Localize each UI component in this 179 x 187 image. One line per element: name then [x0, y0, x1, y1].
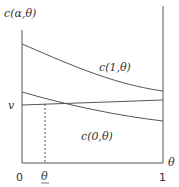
x-tick-one: 1 — [159, 171, 166, 184]
chart: c(α,θ) c(1,θ) c(0,θ) v 0 θ 1 θ — [0, 0, 179, 187]
curve-c1 — [22, 44, 163, 91]
v-label: v — [8, 99, 15, 112]
x-tick-theta-low: θ — [41, 170, 48, 183]
curve-c0-label: c(0,θ) — [81, 130, 113, 143]
x-tick-zero: 0 — [16, 171, 23, 184]
y-axis-label: c(α,θ) — [4, 7, 36, 20]
x-axis-label: θ — [168, 156, 175, 169]
curve-c1-label: c(1,θ) — [99, 61, 131, 74]
curve-c0 — [22, 92, 163, 121]
line-v — [22, 100, 163, 105]
